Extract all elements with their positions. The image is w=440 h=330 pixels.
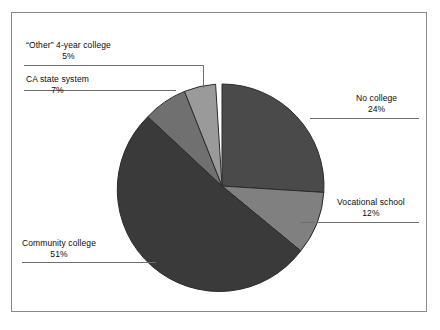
- pie-label-community-college: Community college 51%: [22, 238, 96, 259]
- pie-label-community-college-text: Community college: [22, 238, 96, 249]
- pie-slice-no-college[interactable]: [222, 84, 324, 192]
- pie-label-ca-state-system-percent: 7%: [26, 85, 89, 96]
- pie-label-no-college-percent: 24%: [356, 104, 397, 115]
- pie-label-no-college: No college 24%: [356, 93, 397, 114]
- pie-label-ca-state-system: CA state system 7%: [26, 74, 89, 95]
- pie-slices: [117, 84, 324, 291]
- pie-label-vocational-school-text: Vocational school: [337, 197, 405, 208]
- pie-label-vocational-school-percent: 12%: [337, 208, 405, 219]
- pie-label-other-4-year-college: “Other” 4-year college 5%: [26, 40, 111, 61]
- pie-label-vocational-school: Vocational school 12%: [337, 197, 405, 218]
- pie-chart-figure: “Other” 4-year college 5% CA state syste…: [0, 0, 440, 330]
- pie-label-no-college-text: No college: [356, 93, 397, 104]
- pie-label-community-college-percent: 51%: [22, 249, 96, 260]
- pie-label-other-4-year-college-percent: 5%: [26, 51, 111, 62]
- pie-label-other-4-year-college-text: “Other” 4-year college: [26, 40, 111, 51]
- pie-label-ca-state-system-text: CA state system: [26, 74, 89, 85]
